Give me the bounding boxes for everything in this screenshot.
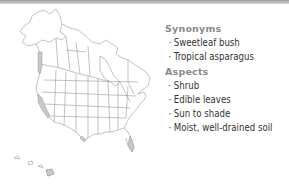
synonyms-heading: Synonyms: [165, 22, 289, 36]
north-america-map: [0, 6, 160, 186]
bullet-icon: ·: [168, 94, 171, 105]
synonym-text: Sweetleaf bush: [174, 37, 240, 48]
aspect-item: ·Sun to shade: [165, 107, 272, 121]
top-bar: [0, 0, 289, 4]
synonym-text: Tropical asparagus: [174, 51, 254, 62]
aspect-item: ·Edible leaves: [165, 93, 272, 107]
aspect-text: Shrub: [174, 80, 199, 91]
bullet-icon: ·: [168, 80, 171, 91]
bullet-icon: ·: [168, 37, 171, 48]
aspect-text: Moist, well-drained soil: [174, 122, 273, 133]
aspect-item: ·Shrub: [165, 79, 272, 93]
synonym-item: ·Tropical asparagus: [165, 50, 272, 64]
bullet-icon: ·: [168, 122, 171, 133]
plant-info-panel: Synonyms ·Sweetleaf bush ·Tropical aspar…: [165, 22, 289, 136]
aspect-text: Sun to shade: [174, 108, 230, 119]
synonym-item: ·Sweetleaf bush: [165, 36, 272, 50]
bullet-icon: ·: [168, 51, 171, 62]
aspect-text: Edible leaves: [174, 94, 231, 105]
bullet-icon: ·: [168, 108, 171, 119]
aspect-item: ·Moist, well-drained soil: [165, 121, 272, 135]
aspects-heading: Aspects: [165, 65, 289, 79]
